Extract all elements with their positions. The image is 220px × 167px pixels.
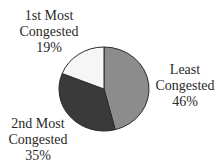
label-line: Least	[150, 62, 220, 78]
label-line: 2nd Most	[5, 116, 71, 132]
label-value: 46%	[150, 94, 220, 110]
label-line: Congested	[5, 132, 71, 148]
label-value: 35%	[5, 148, 71, 164]
label-line: Congested	[16, 24, 82, 40]
label-least-congested: Least Congested 46%	[150, 62, 220, 110]
label-1st-most-congested: 1st Most Congested 19%	[16, 8, 82, 56]
pie-slices	[59, 47, 149, 131]
label-line: Congested	[150, 78, 220, 94]
label-line: 1st Most	[16, 8, 82, 24]
label-value: 19%	[16, 40, 82, 56]
label-2nd-most-congested: 2nd Most Congested 35%	[5, 116, 71, 164]
